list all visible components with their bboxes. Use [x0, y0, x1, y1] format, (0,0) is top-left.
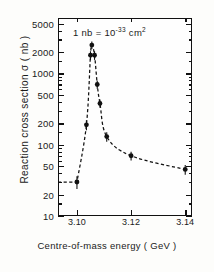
- data-point: [75, 180, 80, 185]
- data-point: [98, 101, 103, 106]
- data-point: [104, 134, 109, 139]
- data-layer: [0, 0, 214, 272]
- fit-curve-dashed: [58, 45, 185, 182]
- data-point: [129, 153, 134, 158]
- data-point: [95, 82, 100, 87]
- data-point: [89, 43, 94, 48]
- data-point: [84, 122, 89, 127]
- data-point: [183, 167, 188, 172]
- chart-figure: 1 nb = 10-33 cm2 Reaction cross section …: [0, 0, 214, 272]
- data-point: [92, 53, 97, 58]
